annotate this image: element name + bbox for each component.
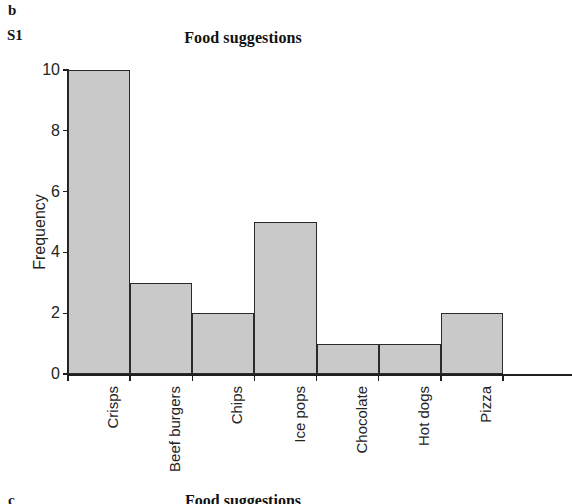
x-tick-mark (378, 374, 379, 381)
y-tick-label: 6 (51, 184, 60, 200)
x-tick-mark (67, 374, 68, 381)
bar-chips (192, 313, 254, 374)
panel-code: S1 (7, 27, 23, 43)
bar-pizza (441, 313, 503, 374)
x-tick-label: Beef burgers (167, 386, 182, 472)
y-axis-title: Frequency (31, 194, 49, 270)
x-tick-label: Chocolate (354, 386, 369, 454)
next-panel-title: Food suggestions (68, 492, 418, 504)
x-tick-label: Hot dogs (416, 386, 431, 446)
y-tick-label: 4 (51, 244, 60, 260)
y-tick-label: 10 (42, 62, 60, 78)
x-tick-mark (502, 374, 503, 381)
y-tick-label: 2 (51, 305, 60, 321)
panel-letter: b (8, 2, 16, 18)
y-tick-label: 8 (51, 123, 60, 139)
plot-area: 0246810 CrispsBeef burgersChipsIce popsC… (68, 70, 503, 374)
next-panel-letter: c (8, 492, 15, 504)
x-tick-label: Ice pops (292, 386, 307, 443)
x-tick-mark (316, 374, 317, 381)
bar-crisps (68, 70, 130, 374)
y-tick-label: 0 (51, 366, 60, 382)
x-tick-mark (129, 374, 130, 381)
x-tick-mark (440, 374, 441, 381)
bar-ice-pops (254, 222, 316, 374)
x-tick-label: Crisps (105, 386, 120, 429)
x-tick-mark (192, 374, 193, 381)
x-axis-line (67, 374, 572, 376)
x-tick-label: Pizza (478, 386, 493, 423)
x-tick-mark (254, 374, 255, 381)
bar-beef-burgers (130, 283, 192, 374)
chart-title: Food suggestions (68, 28, 418, 48)
x-tick-label: Chips (229, 386, 244, 424)
next-panel-clipped: c Food suggestions (0, 492, 511, 504)
bar-chocolate (317, 344, 379, 374)
bar-hot-dogs (379, 344, 441, 374)
